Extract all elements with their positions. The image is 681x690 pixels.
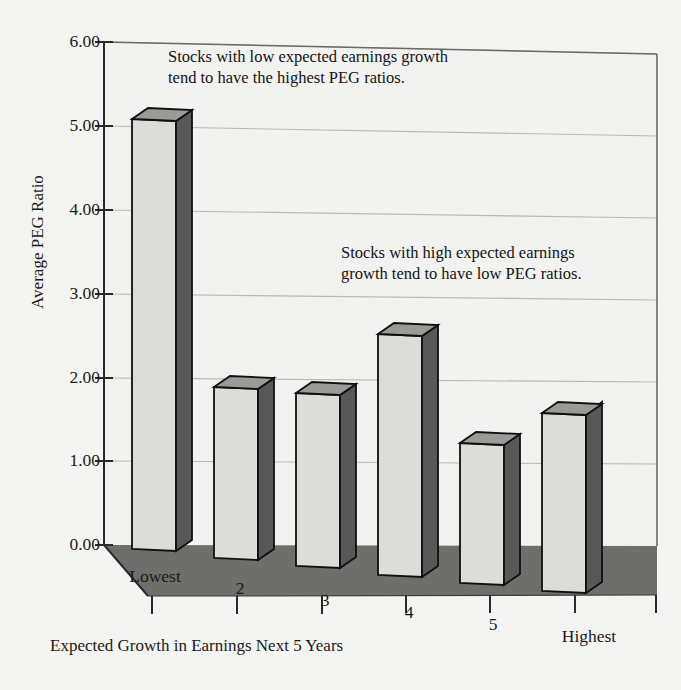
y-tick-label: 2.00 [38,369,100,387]
annotation-high-growth: Stocks with high expected earnings growt… [341,242,582,284]
x-axis-title: Expected Growth in Earnings Next 5 Years [50,636,343,656]
x-tick-label-4: 4 [405,602,414,623]
y-tick-label: 5.00 [38,117,100,135]
bar-highest [542,402,602,593]
x-tick-label-highest: Highest [562,626,616,647]
x-tick-label-2: 2 [236,578,245,599]
x-tick-label-5: 5 [489,614,498,635]
bar-5 [460,432,520,585]
bar-3 [296,382,356,568]
x-tick-label-3: 3 [321,590,330,611]
y-tick-label: 1.00 [38,452,100,470]
bar-4 [378,323,438,577]
bar-2 [214,376,274,560]
y-axis-title: Average PEG Ratio [28,142,48,342]
y-tick-label: 6.00 [38,33,100,51]
annotation-low-growth: Stocks with low expected earnings growth… [168,46,448,88]
chart-figure: 6.00 5.00 4.00 3.00 2.00 1.00 0.00 Avera… [0,0,681,690]
x-tick-label-lowest: Lowest [129,566,181,587]
y-axis-tick-labels: 6.00 5.00 4.00 3.00 2.00 1.00 0.00 [0,0,100,690]
bar-lowest [132,108,192,551]
chart-plot-area [0,0,681,690]
y-tick-label: 0.00 [38,536,100,554]
